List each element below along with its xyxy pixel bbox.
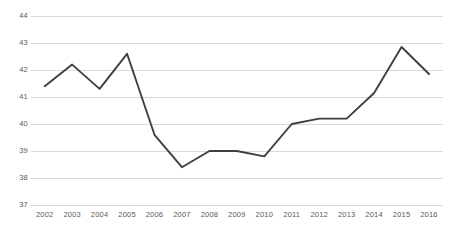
y-tick-label: 38 bbox=[4, 174, 28, 182]
gridline bbox=[31, 43, 443, 44]
y-tick-label: 39 bbox=[4, 147, 28, 155]
gridline bbox=[31, 124, 443, 125]
gridline bbox=[31, 178, 443, 179]
y-tick-label: 43 bbox=[4, 39, 28, 47]
y-tick-label: 41 bbox=[4, 93, 28, 101]
y-tick-label: 44 bbox=[4, 12, 28, 20]
gridline bbox=[31, 16, 443, 17]
plot-area bbox=[31, 16, 443, 205]
gridline bbox=[31, 97, 443, 98]
line-chart: 3738394041424344 20022003200420052006200… bbox=[0, 0, 459, 235]
x-tick-label: 2016 bbox=[412, 210, 446, 219]
y-axis: 3738394041424344 bbox=[0, 0, 28, 235]
y-tick-label: 40 bbox=[4, 120, 28, 128]
gridline bbox=[31, 151, 443, 152]
x-axis: 2002200320042005200620072008200920102011… bbox=[0, 206, 459, 226]
y-tick-label: 42 bbox=[4, 66, 28, 74]
gridline bbox=[31, 70, 443, 71]
